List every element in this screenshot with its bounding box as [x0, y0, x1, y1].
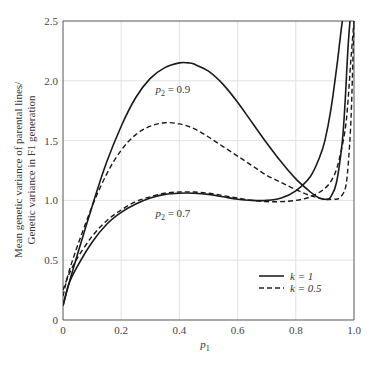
y-tick-label: 2.0: [44, 75, 58, 87]
series-line: [63, 9, 345, 306]
svg-text:p1: p1: [199, 338, 210, 353]
x-tick-label: 1.0: [347, 324, 361, 336]
annotations: p2 = 0.9p2 = 0.7: [154, 83, 190, 222]
series-line: [63, 21, 354, 296]
legend: k = 1 k = 0.5: [259, 270, 322, 294]
annotation-label: p2 = 0.7: [154, 207, 190, 222]
x-tick-label: 0.4: [173, 324, 187, 336]
y-axis-label-line-1: Mean genetic variance of parental lines/: [12, 81, 24, 258]
x-tick-label: 0: [60, 324, 66, 336]
y-tick-label: 0.5: [44, 254, 58, 266]
x-axis-label: p1: [199, 338, 210, 353]
y-tick-labels: 00.51.01.52.02.5: [44, 15, 58, 326]
y-tick-label: 2.5: [44, 15, 58, 27]
x-tick-labels: 00.20.40.60.81.0: [60, 324, 361, 336]
y-tick-label: 0: [53, 314, 59, 326]
series-line: [63, 21, 354, 290]
x-axis-label-sub: 1: [206, 344, 210, 353]
y-axis-label: Mean genetic variance of parental lines/…: [12, 81, 37, 258]
annotation-label: p2 = 0.9: [154, 83, 190, 98]
legend-label-k05: k = 0.5: [290, 282, 322, 294]
y-axis-label-line-2: Genetic variance in F1 generation: [25, 95, 37, 245]
legend-label-k1: k = 1: [290, 270, 313, 282]
y-tick-label: 1.0: [44, 194, 58, 206]
chart: 00.20.40.60.81.0 00.51.01.52.02.5 p2 = 0…: [0, 0, 375, 368]
x-tick-label: 0.8: [289, 324, 303, 336]
x-tick-label: 0.6: [231, 324, 245, 336]
series-line: [63, 9, 351, 306]
x-tick-label: 0.2: [114, 324, 128, 336]
data-series: [63, 9, 354, 306]
y-tick-label: 1.5: [44, 135, 58, 147]
